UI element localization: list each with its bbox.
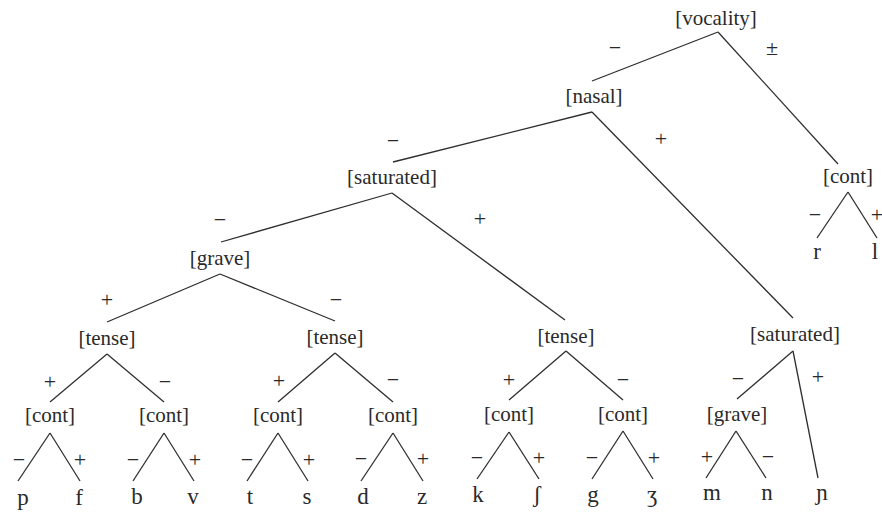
- branch-sign: ±: [766, 35, 778, 60]
- branch-edge: [50, 354, 107, 402]
- branch-sign: +: [812, 364, 824, 389]
- phoneme-leaf-n: n: [761, 480, 773, 505]
- branch-sign: +: [303, 447, 315, 472]
- phoneme-leaf-t: t: [247, 484, 254, 509]
- branch-sign: +: [871, 202, 882, 227]
- branch-sign: −: [13, 447, 25, 472]
- branch-edge: [278, 353, 335, 402]
- branch-sign: −: [387, 367, 399, 392]
- branch-sign: −: [471, 445, 483, 470]
- feature-tree-diagram: −±−+−++−+−+−+−−+−+−+−+−+−+−+−++− [vocali…: [0, 0, 882, 517]
- feature-node-cont-gZ: [cont]: [598, 402, 648, 426]
- branch-edge: [335, 353, 393, 402]
- phoneme-leaf-v: v: [187, 484, 199, 509]
- feature-node-cont-kS: [cont]: [484, 402, 534, 426]
- branch-sign: +: [503, 367, 515, 392]
- branch-sign: +: [701, 444, 713, 469]
- branch-sign: +: [533, 445, 545, 470]
- phoneme-leaf-b: b: [131, 484, 143, 509]
- branch-sign: −: [762, 444, 774, 469]
- phoneme-leaf-l: l: [872, 239, 878, 264]
- feature-node-cont-bv: [cont]: [139, 403, 189, 427]
- branch-sign: −: [127, 447, 139, 472]
- feature-node-grave-2: [grave]: [707, 402, 768, 426]
- feature-node-tense-2: [tense]: [306, 325, 363, 349]
- phoneme-leaf-k: k: [472, 482, 484, 507]
- feature-node-saturated-1: [saturated]: [347, 165, 437, 189]
- phoneme-leaf-m: m: [703, 480, 721, 505]
- phoneme-leaf-s: s: [303, 484, 312, 509]
- feature-nodes: [vocality][nasal][cont][saturated][grave…: [25, 6, 873, 427]
- branch-sign: −: [732, 366, 744, 391]
- branch-edge: [592, 112, 793, 318]
- phoneme-leaf-f: f: [75, 485, 83, 510]
- feature-node-cont-pf: [cont]: [25, 403, 75, 427]
- branch-sign: −: [355, 446, 367, 471]
- branch-sign: −: [387, 128, 399, 153]
- feature-node-cont-ts: [cont]: [253, 403, 303, 427]
- phoneme-leaves: pfbvtsdzkʃgʒmnɲrl: [17, 239, 878, 510]
- branch-sign: −: [586, 445, 598, 470]
- branch-sign: +: [273, 368, 285, 393]
- branch-sign: +: [74, 447, 86, 472]
- feature-node-saturated-2: [saturated]: [750, 322, 840, 346]
- phoneme-leaf-g: g: [587, 482, 599, 507]
- branch-sign: −: [330, 287, 342, 312]
- phoneme-leaf-palatal-n: ɲ: [814, 480, 828, 505]
- branch-edge: [393, 112, 592, 162]
- feature-node-tense-1: [tense]: [78, 326, 135, 350]
- branch-sign: +: [101, 287, 113, 312]
- branch-sign: −: [241, 447, 253, 472]
- branch-sign: −: [809, 202, 821, 227]
- feature-node-grave-1: [grave]: [190, 246, 251, 270]
- branch-edge: [221, 193, 392, 242]
- phoneme-leaf-d: d: [357, 484, 369, 509]
- branch-edge: [107, 274, 220, 322]
- branch-sign: −: [617, 367, 629, 392]
- feature-node-nasal: [nasal]: [565, 84, 622, 108]
- phoneme-leaf-r: r: [813, 239, 821, 264]
- branch-edge: [566, 351, 623, 400]
- branch-edge: [107, 354, 164, 402]
- branch-edge: [737, 351, 793, 399]
- branch-sign: −: [609, 35, 621, 60]
- branch-edge: [509, 351, 566, 400]
- branch-edge: [220, 274, 335, 321]
- branch-sign: +: [648, 445, 660, 470]
- feature-node-cont-rl: [cont]: [823, 164, 873, 188]
- branch-sign: −: [159, 369, 171, 394]
- feature-node-cont-dz: [cont]: [368, 403, 418, 427]
- branch-sign: +: [417, 446, 429, 471]
- branch-sign: +: [189, 447, 201, 472]
- feature-node-vocality: [vocality]: [675, 6, 757, 30]
- branch-sign: +: [655, 126, 667, 151]
- phoneme-leaf-p: p: [17, 485, 29, 510]
- phoneme-leaf-ezh: ʒ: [647, 482, 657, 507]
- branch-edge: [817, 192, 848, 238]
- feature-node-tense-3: [tense]: [537, 324, 594, 348]
- phoneme-leaf-z: z: [417, 484, 427, 509]
- branch-sign: +: [474, 206, 486, 231]
- branch-sign: −: [214, 207, 226, 232]
- branch-sign: +: [44, 369, 56, 394]
- phoneme-leaf-esh: ʃ: [532, 482, 542, 507]
